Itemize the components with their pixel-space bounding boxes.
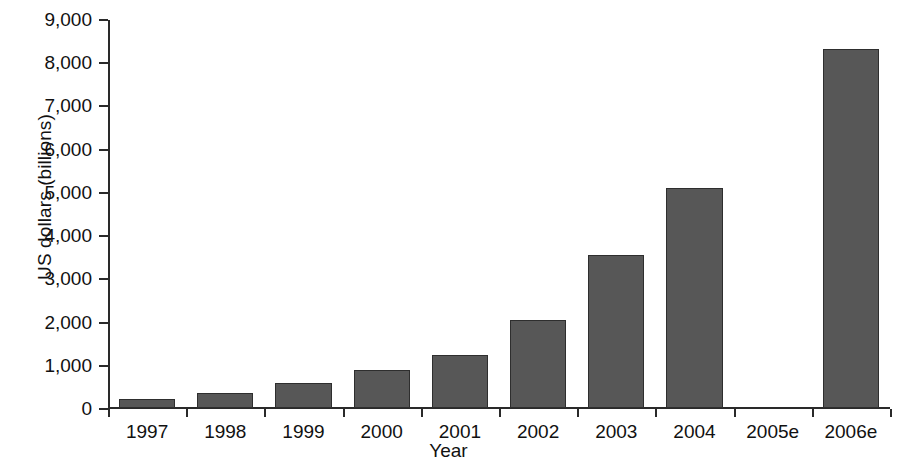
- y-tick-label-8000: 8,000: [44, 52, 92, 74]
- x-tick-10: [890, 409, 892, 417]
- bar-2003: [588, 255, 644, 408]
- y-tick-label-0: 0: [81, 398, 92, 420]
- bar-2000: [354, 370, 410, 408]
- y-axis-line: [108, 20, 110, 409]
- bar-1998: [197, 393, 253, 408]
- y-tick-3000: [99, 278, 108, 280]
- bar-2004: [666, 188, 722, 408]
- bar-1999: [275, 383, 331, 408]
- y-tick-4000: [99, 235, 108, 237]
- x-tick-8: [734, 409, 736, 417]
- y-tick-label-9000: 9,000: [44, 9, 92, 31]
- plot-area: 01,0002,0003,0004,0005,0006,0007,0008,00…: [108, 20, 890, 409]
- bar-2006e: [823, 49, 879, 408]
- y-tick-label-6000: 6,000: [44, 139, 92, 161]
- y-tick-label-2000: 2,000: [44, 312, 92, 334]
- x-tick-7: [655, 409, 657, 417]
- x-tick-3: [343, 409, 345, 417]
- y-tick-9000: [99, 19, 108, 21]
- y-tick-label-5000: 5,000: [44, 182, 92, 204]
- y-tick-label-1000: 1,000: [44, 355, 92, 377]
- x-tick-0: [108, 409, 110, 417]
- bar-chart: US dollars (billions) 01,0002,0003,0004,…: [0, 0, 897, 465]
- y-tick-label-4000: 4,000: [44, 225, 92, 247]
- bar-2001: [432, 355, 488, 408]
- bar-2002: [510, 320, 566, 408]
- x-tick-6: [577, 409, 579, 417]
- y-tick-5000: [99, 192, 108, 194]
- bar-1997: [119, 399, 175, 408]
- y-tick-2000: [99, 322, 108, 324]
- y-tick-label-3000: 3,000: [44, 268, 92, 290]
- x-tick-4: [421, 409, 423, 417]
- y-tick-7000: [99, 105, 108, 107]
- x-axis-title: Year: [0, 440, 897, 462]
- x-tick-9: [812, 409, 814, 417]
- x-tick-2: [264, 409, 266, 417]
- y-tick-6000: [99, 149, 108, 151]
- y-tick-label-7000: 7,000: [44, 95, 92, 117]
- y-tick-1000: [99, 365, 108, 367]
- x-tick-1: [186, 409, 188, 417]
- x-tick-5: [499, 409, 501, 417]
- y-tick-0: [99, 408, 108, 410]
- y-tick-8000: [99, 62, 108, 64]
